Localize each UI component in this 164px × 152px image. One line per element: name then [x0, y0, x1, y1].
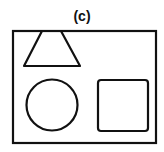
rounded-square-shape: [98, 80, 148, 131]
trapezoid-shape: [24, 31, 80, 66]
figure-canvas: [0, 0, 164, 152]
circle-shape: [27, 80, 78, 131]
